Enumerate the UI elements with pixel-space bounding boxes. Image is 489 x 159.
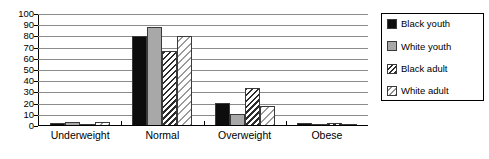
bar	[65, 122, 80, 125]
y-axis-tick-label: 60	[23, 54, 34, 64]
y-axis-tick-mark	[34, 81, 38, 82]
bar	[50, 123, 65, 125]
bar	[147, 27, 162, 125]
bar	[245, 88, 260, 125]
legend-label: Black youth	[401, 19, 450, 29]
y-axis-tick-mark	[34, 48, 38, 49]
y-axis-tick-mark	[34, 59, 38, 60]
plot-area: 0102030405060708090100	[38, 14, 368, 126]
bar	[342, 124, 357, 125]
y-axis-tick-mark	[34, 126, 38, 127]
x-axis-label: Obese	[286, 130, 368, 141]
legend-item: Black adult	[387, 64, 479, 74]
bar	[312, 124, 327, 125]
bar	[297, 123, 312, 125]
bar	[230, 114, 245, 125]
y-axis-tick-label: 70	[23, 43, 34, 53]
bar-groups	[39, 14, 368, 125]
bar	[260, 106, 275, 125]
bar-group	[204, 14, 286, 125]
y-axis-tick-mark	[34, 92, 38, 93]
bar	[177, 36, 192, 125]
y-axis-tick-label: 40	[23, 76, 34, 86]
chart-legend: Black youth White youth Black adult Whit…	[381, 13, 484, 101]
y-axis-tick-mark	[34, 14, 38, 15]
y-axis-tick-label: 100	[18, 9, 34, 19]
bar	[162, 51, 177, 125]
y-axis-tick-mark	[34, 36, 38, 37]
legend-swatch-black-youth	[387, 19, 397, 29]
bar-group	[121, 14, 203, 125]
bar-group	[286, 14, 368, 125]
legend-item: White adult	[387, 86, 479, 96]
legend-swatch-black-adult	[387, 64, 397, 74]
y-axis-tick-mark	[34, 104, 38, 105]
y-axis-tick-label: 30	[23, 88, 34, 98]
y-axis-tick-label: 90	[23, 20, 34, 30]
x-axis-label: Normal	[121, 130, 203, 141]
y-axis-tick-mark	[34, 70, 38, 71]
bar	[215, 103, 230, 125]
y-axis-tick-mark	[34, 115, 38, 116]
x-axis-labels: UnderweightNormalOverweightObese	[39, 130, 368, 141]
legend-swatch-white-youth	[387, 41, 397, 51]
bar-chart: 0102030405060708090100 UnderweightNormal…	[0, 0, 489, 159]
legend-label: Black adult	[401, 64, 447, 74]
legend-item: White youth	[387, 41, 479, 51]
x-axis-label: Underweight	[39, 130, 121, 141]
bar-group	[39, 14, 121, 125]
y-axis-tick-label: 10	[23, 110, 34, 120]
legend-item: Black youth	[387, 19, 479, 29]
y-axis-tick-label: 50	[23, 65, 34, 75]
bar	[95, 122, 110, 125]
y-axis-tick-label: 20	[23, 99, 34, 109]
bar	[80, 124, 95, 125]
legend-label: White adult	[401, 86, 449, 96]
bar	[327, 123, 342, 125]
legend-swatch-white-adult	[387, 86, 397, 96]
y-axis-tick-mark	[34, 25, 38, 26]
bar	[132, 36, 147, 125]
y-axis-tick-label: 80	[23, 32, 34, 42]
x-axis-label: Overweight	[204, 130, 286, 141]
legend-label: White youth	[401, 42, 451, 52]
